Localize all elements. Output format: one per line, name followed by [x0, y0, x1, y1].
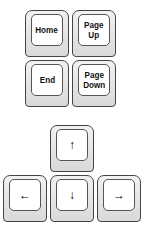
page-up-key[interactable]: Page Up: [72, 10, 116, 57]
down-arrow-key[interactable]: ↓: [50, 175, 94, 222]
page-down-key[interactable]: Page Down: [72, 60, 116, 107]
home-key-face: Home: [31, 14, 63, 46]
end-key[interactable]: End: [25, 60, 69, 107]
arrow-right-icon: →: [113, 189, 125, 201]
end-key-face: End: [31, 64, 63, 96]
up-arrow-key[interactable]: ↑: [50, 125, 94, 172]
arrow-down-icon: ↓: [69, 189, 75, 201]
page-up-key-label: Page Up: [84, 20, 103, 40]
left-arrow-key[interactable]: ←: [3, 175, 47, 222]
up-arrow-key-face: ↑: [56, 129, 88, 161]
right-arrow-key[interactable]: →: [97, 175, 141, 222]
left-arrow-key-face: ←: [9, 179, 41, 211]
right-arrow-key-face: →: [103, 179, 135, 211]
down-arrow-key-face: ↓: [56, 179, 88, 211]
arrow-left-icon: ←: [19, 189, 31, 201]
page-down-key-label: Page Down: [83, 70, 105, 90]
end-key-label: End: [39, 75, 54, 85]
home-key[interactable]: Home: [25, 10, 69, 57]
home-key-label: Home: [36, 25, 59, 35]
arrow-up-icon: ↑: [69, 139, 75, 151]
page-up-key-face: Page Up: [78, 14, 110, 46]
page-down-key-face: Page Down: [78, 64, 110, 96]
